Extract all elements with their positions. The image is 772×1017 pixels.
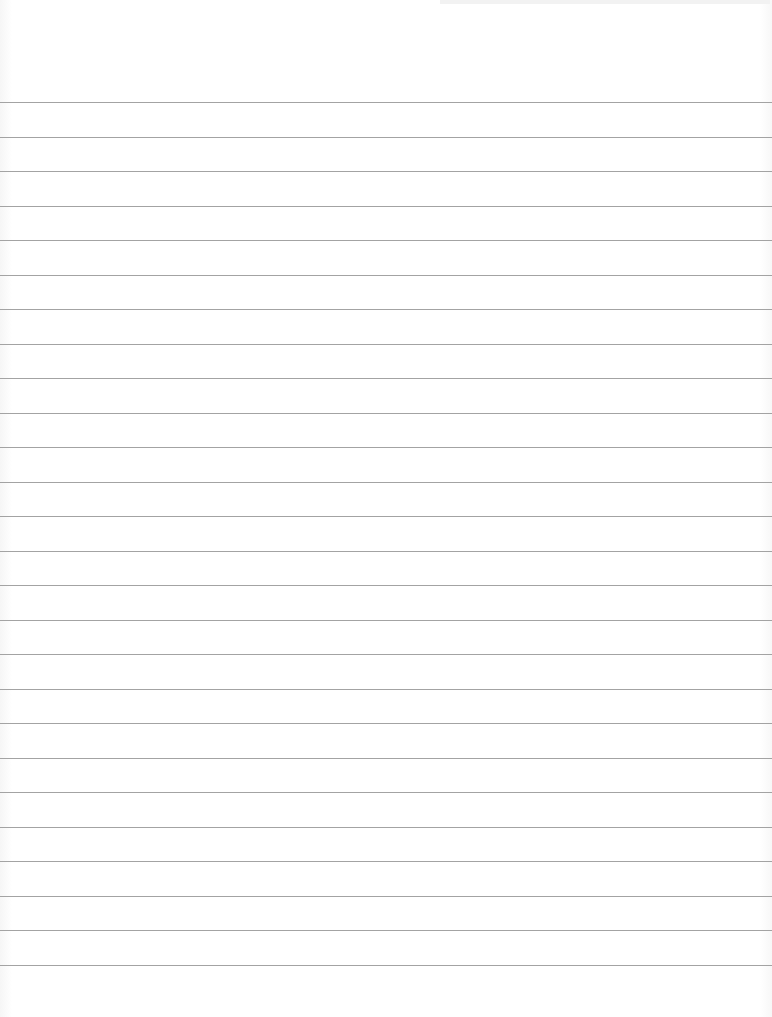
ruled-line [0,378,772,379]
ruled-line [0,792,772,793]
ruled-line [0,827,772,828]
ruled-line [0,240,772,241]
ruled-line [0,551,772,552]
ruled-line [0,689,772,690]
ruled-line [0,413,772,414]
ruled-line [0,965,772,966]
ruled-line [0,861,772,862]
ruled-line [0,654,772,655]
ruled-line [0,275,772,276]
ruled-line [0,137,772,138]
ruled-line [0,723,772,724]
ruled-line [0,344,772,345]
ruled-line [0,896,772,897]
ruled-line [0,758,772,759]
lined-paper-sheet [0,0,772,1017]
ruled-line [0,585,772,586]
ruled-line [0,102,772,103]
ruled-line [0,482,772,483]
ruled-line [0,309,772,310]
ruled-line [0,620,772,621]
ruled-line [0,447,772,448]
ruled-line [0,171,772,172]
top-edge-bleed-through [440,0,770,4]
ruled-line [0,930,772,931]
ruled-line [0,516,772,517]
ruled-line [0,206,772,207]
